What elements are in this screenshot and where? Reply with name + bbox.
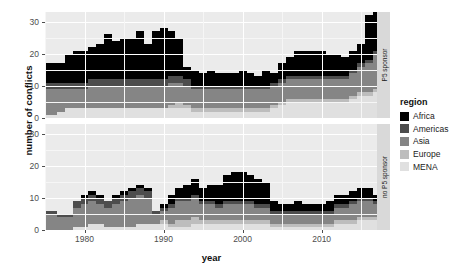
y-tick-mark (42, 230, 45, 231)
x-tick-label: 1990 (147, 234, 181, 244)
gridline-major-y (45, 166, 377, 167)
x-tick-label: 1980 (68, 234, 102, 244)
legend-title: region (400, 97, 466, 107)
legend-item-africa[interactable]: Africa (400, 110, 466, 123)
gridline-minor-y (45, 214, 377, 215)
gridline-minor-x (361, 124, 362, 230)
gridline-major-y (45, 134, 377, 135)
y-tick-label: 30 (15, 17, 39, 27)
legend-swatch-icon (400, 112, 409, 121)
gridline-major-y (45, 86, 377, 87)
gridline-minor-y (45, 70, 377, 71)
gridline-minor-y (45, 150, 377, 151)
gridline-minor-x (203, 12, 204, 118)
y-tick-label: 0 (15, 225, 39, 235)
y-tick-label: 0 (15, 113, 39, 123)
legend-item-asia[interactable]: Asia (400, 135, 466, 148)
y-tick-label: 20 (15, 161, 39, 171)
x-axis-title: year (45, 252, 378, 263)
legend-swatch-icon (400, 137, 409, 146)
gridline-major-y (45, 22, 377, 23)
y-tick-mark (42, 118, 45, 119)
legend-item-label: MENA (413, 162, 438, 172)
gridline-minor-y (45, 38, 377, 39)
legend-item-americas[interactable]: Americas (400, 123, 466, 136)
x-tick-label: 2010 (305, 234, 339, 244)
y-tick-label: 10 (15, 193, 39, 203)
gridline-major-x (243, 12, 244, 118)
facet-strip-no-p5-sponsor: no P5 sponsor (377, 124, 390, 230)
x-tick-mark (164, 230, 165, 233)
gridline-minor-x (124, 12, 125, 118)
gridline-minor-x (45, 124, 46, 230)
gridline-minor-x (361, 12, 362, 118)
gridline-major-x (243, 124, 244, 230)
y-tick-label: 30 (15, 129, 39, 139)
x-tick-mark (322, 230, 323, 233)
x-tick-mark (243, 230, 244, 233)
plot-panel-no-p5-sponsor (45, 124, 377, 230)
plot-panel-p5-sponsor (45, 12, 377, 118)
gridline-minor-x (45, 12, 46, 118)
x-tick-label: 2000 (226, 234, 260, 244)
legend-item-label: Asia (413, 136, 430, 146)
gridline-minor-x (124, 124, 125, 230)
gridline-minor-x (282, 124, 283, 230)
gridline-major-y (45, 54, 377, 55)
area-series-africa (45, 12, 377, 86)
legend-item-label: Africa (413, 111, 435, 121)
gridline-minor-y (45, 182, 377, 183)
legend-item-mena[interactable]: MENA (400, 160, 466, 173)
facet-strip-label-bottom: no P5 sponsor (380, 156, 387, 198)
facet-strip-label-top: P5 sponsor (380, 49, 387, 82)
gridline-minor-x (282, 12, 283, 118)
gridline-minor-y (45, 102, 377, 103)
gridline-major-x (322, 124, 323, 230)
legend-swatch-icon (400, 162, 409, 171)
y-tick-label: 20 (15, 49, 39, 59)
legend-items: AfricaAmericasAsiaEuropeMENA (400, 110, 466, 173)
legend-item-label: Europe (413, 149, 440, 159)
legend-item-europe[interactable]: Europe (400, 148, 466, 161)
gridline-major-x (85, 12, 86, 118)
legend-swatch-icon (400, 150, 409, 159)
gridline-minor-x (203, 124, 204, 230)
facet-strip-p5-sponsor: P5 sponsor (377, 12, 390, 118)
gridline-major-x (85, 124, 86, 230)
chart-root: number of conflicts 0102030 0102030 P5 s… (0, 0, 466, 270)
gridline-major-y (45, 198, 377, 199)
legend-item-label: Americas (413, 124, 448, 134)
gridline-major-x (322, 12, 323, 118)
legend: region AfricaAmericasAsiaEuropeMENA (400, 97, 466, 173)
gridline-major-x (164, 12, 165, 118)
gridline-major-x (164, 124, 165, 230)
legend-swatch-icon (400, 124, 409, 133)
y-tick-label: 10 (15, 81, 39, 91)
x-tick-mark (85, 230, 86, 233)
